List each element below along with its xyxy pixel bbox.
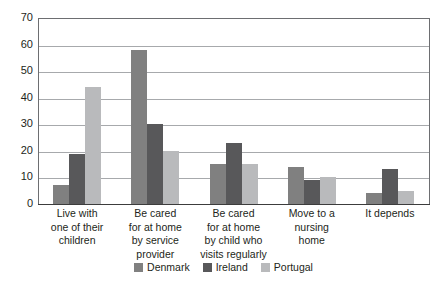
- y-axis: 010203040506070: [0, 18, 33, 205]
- bar-ireland: [226, 143, 242, 204]
- y-axis-tick-label: 0: [3, 198, 33, 209]
- bar-denmark: [131, 50, 147, 204]
- x-axis-category-labels: Live withone of theirchildrenBe caredfor…: [38, 207, 430, 263]
- x-axis-tick-label: Be caredfor at homeby child whovisits re…: [188, 207, 278, 261]
- bar-denmark: [210, 164, 226, 204]
- x-axis-tick-label-line: nursing: [267, 221, 357, 235]
- x-axis-tick-label-line: by service: [110, 234, 200, 248]
- bar-denmark: [288, 167, 304, 204]
- y-axis-tick-label: 40: [3, 92, 33, 103]
- y-axis-tick-label: 30: [3, 118, 33, 129]
- bar-portugal: [320, 177, 336, 204]
- bar-portugal: [242, 164, 258, 204]
- y-axis-tick-label: 10: [3, 171, 33, 182]
- bar-ireland: [382, 169, 398, 204]
- legend-item-portugal[interactable]: Portugal: [261, 262, 313, 273]
- x-axis-tick-label-line: provider: [110, 248, 200, 262]
- bar-portugal: [398, 191, 414, 204]
- bar-denmark: [366, 193, 382, 204]
- x-axis-tick-label-line: by child who: [188, 234, 278, 248]
- x-axis-tick-label-line: home: [267, 234, 357, 248]
- bar-group: [288, 18, 336, 204]
- bar-group: [366, 18, 414, 204]
- x-axis-tick-label-line: for at home: [188, 221, 278, 235]
- legend-label: Denmark: [147, 262, 190, 273]
- x-axis-tick-label-line: Be cared: [188, 207, 278, 221]
- bar-portugal: [85, 87, 101, 204]
- bar-chart: 010203040506070 Live withone of theirchi…: [0, 0, 447, 295]
- legend-swatch-icon: [203, 263, 212, 272]
- legend-label: Portugal: [274, 262, 313, 273]
- x-axis-tick-label-line: one of their: [32, 221, 122, 235]
- bar-group: [131, 18, 179, 204]
- x-axis-tick-label: Be caredfor at homeby serviceprovider: [110, 207, 200, 261]
- y-axis-tick-label: 70: [3, 12, 33, 23]
- legend-item-ireland[interactable]: Ireland: [203, 262, 248, 273]
- y-axis-tick-label: 60: [3, 39, 33, 50]
- bar-group: [53, 18, 101, 204]
- bar-denmark: [53, 185, 69, 204]
- bar-ireland: [304, 180, 320, 204]
- bar-portugal: [163, 151, 179, 204]
- x-axis-tick-label: It depends: [345, 207, 435, 221]
- x-axis-tick-label-line: Live with: [32, 207, 122, 221]
- y-axis-tick-label: 50: [3, 65, 33, 76]
- legend-swatch-icon: [261, 263, 270, 272]
- bar-group: [210, 18, 258, 204]
- bar-ireland: [147, 124, 163, 204]
- bars-layer: [39, 18, 430, 204]
- y-axis-tick-label: 20: [3, 145, 33, 156]
- bar-ireland: [69, 154, 85, 204]
- legend-item-denmark[interactable]: Denmark: [134, 262, 190, 273]
- legend-label: Ireland: [216, 262, 248, 273]
- x-axis-tick-label-line: It depends: [345, 207, 435, 221]
- legend-swatch-icon: [134, 263, 143, 272]
- x-axis-tick-label: Move to anursinghome: [267, 207, 357, 248]
- x-axis-tick-label-line: Move to a: [267, 207, 357, 221]
- x-axis-tick-label: Live withone of theirchildren: [32, 207, 122, 248]
- x-axis-tick-label-line: visits regularly: [188, 248, 278, 262]
- chart-legend: DenmarkIrelandPortugal: [0, 262, 447, 273]
- x-axis-tick-label-line: children: [32, 234, 122, 248]
- x-axis-tick-label-line: Be cared: [110, 207, 200, 221]
- x-axis-tick-label-line: for at home: [110, 221, 200, 235]
- x-axis-line: [38, 204, 430, 205]
